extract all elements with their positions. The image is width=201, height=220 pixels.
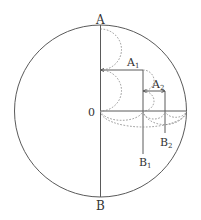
label-o: 0 bbox=[88, 106, 95, 119]
dashed-arc-b2-edge bbox=[165, 111, 187, 117]
circle-diagram: A B 0 A1 A2 B1 B2 bbox=[0, 0, 201, 220]
dashed-arc-a2-axis bbox=[143, 91, 154, 111]
label-b: B bbox=[96, 199, 105, 213]
label-a: A bbox=[95, 13, 105, 27]
label-a1: A1 bbox=[126, 56, 139, 70]
dashed-arc-a1-o bbox=[101, 70, 122, 111]
dashed-arc-a-a1 bbox=[101, 29, 122, 70]
label-b2: B2 bbox=[160, 136, 173, 150]
label-a2: A2 bbox=[151, 78, 164, 92]
label-b1: B1 bbox=[139, 156, 152, 170]
diagram-canvas: A B 0 A1 A2 B1 B2 bbox=[0, 0, 201, 220]
